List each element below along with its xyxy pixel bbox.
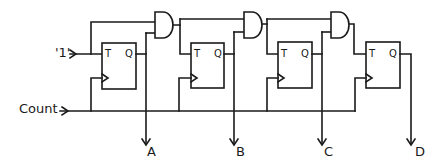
and-gate-3 [331, 12, 349, 38]
and-gate-2 [244, 12, 262, 38]
count-label: Count [19, 102, 58, 115]
output-a-label: A [147, 145, 156, 158]
counter-diagram: '1' Count T Q T Q T Q T Q A B C D [0, 0, 442, 167]
ff1-q-label: Q [125, 49, 133, 59]
and-gate-1 [155, 12, 173, 38]
ff1-t-label: T [105, 49, 111, 59]
ff2-q-label: Q [214, 49, 222, 59]
ff4-q-label: Q [389, 49, 397, 59]
ff4-t-label: T [369, 49, 375, 59]
ff2-t-label: T [194, 49, 200, 59]
wire-and1-out [173, 25, 191, 54]
ff3-t-label: T [281, 49, 287, 59]
logic-one-input-arrow [70, 50, 102, 58]
output-b-label: B [236, 145, 245, 158]
output-c-label: C [324, 145, 333, 158]
logic-one-label: '1' [55, 46, 70, 59]
wire-and2-out [262, 24, 278, 54]
circuit-drawing [0, 0, 442, 167]
output-d-label: D [415, 145, 425, 158]
wire-d-out [400, 54, 411, 144]
ff3-q-label: Q [301, 49, 309, 59]
wire-and3-out [349, 24, 366, 54]
count-clock-line [60, 107, 355, 115]
